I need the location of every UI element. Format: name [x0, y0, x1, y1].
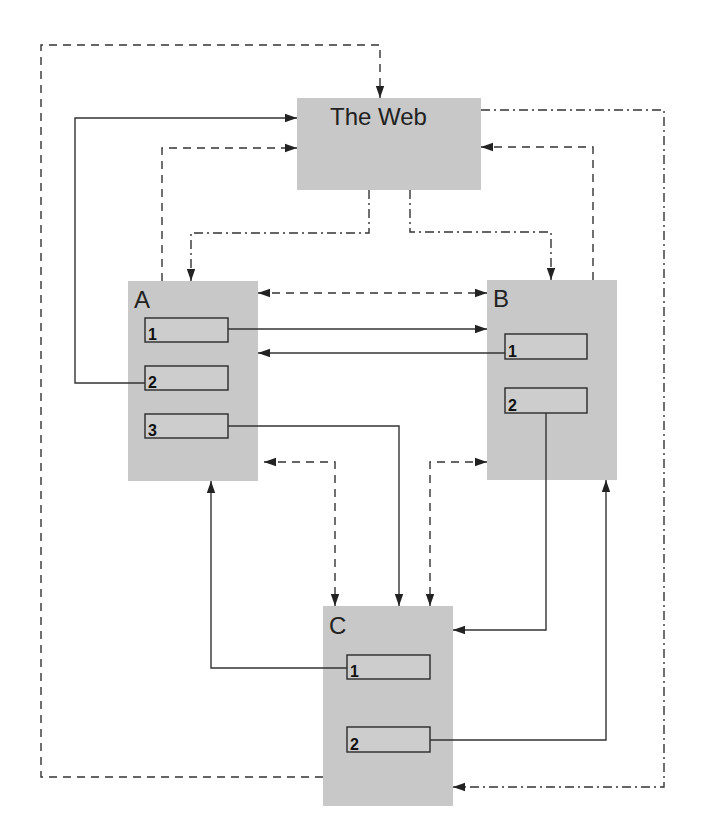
edge-web-to-a-dashdot	[191, 190, 369, 281]
nodes-layer: The WebA123B12C12	[128, 98, 617, 806]
node-C: C12	[323, 606, 453, 806]
slot-A-2: 2	[145, 366, 228, 391]
edge-c2-to-b-solid	[430, 480, 606, 740]
slot-label: 2	[350, 736, 359, 753]
slot-label: 2	[508, 397, 517, 414]
node-label: The Web	[330, 103, 427, 130]
slot-box	[505, 388, 587, 413]
node-label: A	[134, 286, 150, 313]
slot-label: 3	[148, 422, 157, 439]
slot-label: 1	[508, 343, 517, 360]
slot-label: 2	[148, 374, 157, 391]
slot-A-3: 3	[145, 414, 228, 439]
node-label: B	[493, 285, 509, 312]
slot-box	[145, 414, 228, 438]
slot-box	[145, 366, 228, 390]
slot-C-2: 2	[347, 727, 430, 753]
edge-a-to-web-dashed	[162, 148, 297, 281]
slot-C-1: 1	[347, 655, 430, 680]
slot-box	[145, 318, 228, 342]
diagram-canvas: The WebA123B12C12	[0, 0, 701, 840]
edge-web-to-b-dashdot	[410, 190, 551, 280]
node-A: A123	[128, 281, 258, 481]
node-web: The Web	[297, 98, 481, 190]
edge-b-c-dashed-bidirectional	[430, 462, 487, 606]
slot-box	[347, 727, 430, 752]
slot-A-1: 1	[145, 318, 228, 343]
slot-B-1: 1	[505, 334, 587, 360]
node-B: B12	[487, 280, 617, 480]
slot-box	[347, 655, 430, 679]
edge-a-c-dashed-bidirectional	[264, 462, 335, 606]
slot-B-2: 2	[505, 388, 587, 414]
slot-label: 1	[350, 663, 359, 680]
node-label: C	[329, 612, 346, 639]
edge-b-to-web-dashed	[481, 147, 593, 280]
slot-box	[505, 334, 587, 359]
slot-label: 1	[148, 326, 157, 343]
